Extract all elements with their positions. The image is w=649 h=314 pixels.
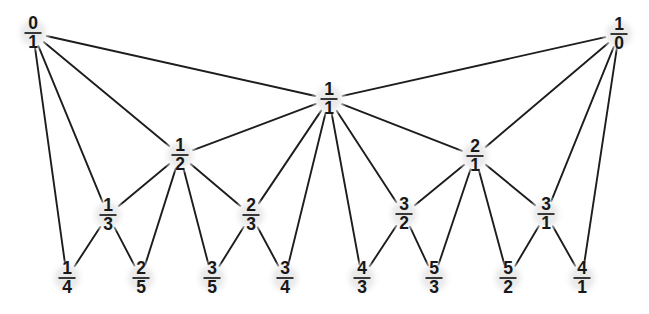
tree-edge — [486, 43, 609, 147]
tree-edge — [191, 164, 241, 206]
tree-edge — [370, 226, 397, 267]
fraction-numerator: 0 — [28, 13, 38, 33]
farey-tree-graph: 0110111221132332311425353443535241 — [0, 0, 649, 314]
tree-edge — [258, 227, 279, 265]
fraction-numerator: 1 — [614, 14, 624, 34]
fraction-numerator: 1 — [62, 258, 72, 278]
tree-edge — [515, 226, 539, 266]
farey-tree-figure: 0110111221132332311425353443535241 — [0, 0, 649, 314]
fraction-numerator: 4 — [577, 258, 587, 278]
fraction-denominator: 0 — [614, 33, 624, 53]
tree-edge — [551, 47, 613, 201]
fraction-numerator: 4 — [357, 258, 367, 278]
tree-edge — [259, 111, 321, 204]
fraction-numerator: 2 — [136, 258, 146, 278]
tree-edge — [145, 168, 176, 264]
nodes-layer: 0110111221132332311425353443535241 — [25, 13, 628, 297]
tree-edge — [486, 165, 535, 205]
fraction-numerator: 3 — [399, 194, 409, 214]
tree-edge — [479, 170, 505, 265]
tree-edge — [342, 104, 462, 151]
fraction-denominator: 1 — [577, 277, 587, 297]
fraction-denominator: 5 — [136, 277, 146, 297]
tree-edge — [193, 104, 316, 150]
node-halos-layer — [14, 14, 638, 297]
fraction-denominator: 2 — [503, 277, 513, 297]
tree-edge — [75, 227, 101, 267]
tree-edge — [219, 227, 243, 266]
tree-edge — [44, 42, 169, 146]
tree-edge — [184, 169, 209, 265]
tree-edge — [115, 227, 135, 265]
fraction-denominator: 1 — [541, 213, 551, 233]
fraction-numerator: 1 — [324, 79, 334, 99]
fraction-denominator: 5 — [207, 277, 217, 297]
tree-edge — [343, 37, 606, 96]
tree-edge — [553, 226, 575, 266]
fraction-denominator: 3 — [246, 214, 256, 234]
fraction-denominator: 3 — [103, 214, 113, 234]
fraction-numerator: 5 — [429, 258, 439, 278]
fraction-denominator: 1 — [324, 98, 334, 118]
fraction-denominator: 4 — [62, 277, 72, 297]
fraction-denominator: 1 — [470, 155, 480, 175]
tree-edge — [438, 169, 470, 264]
fraction-numerator: 3 — [207, 258, 217, 278]
fraction-denominator: 3 — [357, 277, 367, 297]
fraction-numerator: 2 — [470, 136, 480, 156]
fraction-numerator: 1 — [103, 195, 113, 215]
fraction-denominator: 2 — [399, 213, 409, 233]
tree-edge — [119, 164, 169, 206]
tree-edge — [288, 113, 325, 265]
fraction-denominator: 1 — [28, 32, 38, 52]
fraction-denominator: 2 — [175, 154, 185, 174]
tree-edge — [410, 227, 428, 266]
fraction-numerator: 5 — [503, 258, 513, 278]
fraction-numerator: 3 — [280, 258, 290, 278]
fraction-numerator: 2 — [246, 195, 256, 215]
edges-layer — [35, 36, 617, 266]
fraction-numerator: 3 — [541, 194, 551, 214]
tree-edge — [332, 113, 360, 264]
tree-edge — [35, 47, 65, 264]
tree-edge — [47, 36, 316, 96]
fraction-denominator: 4 — [280, 277, 290, 297]
fraction-numerator: 1 — [175, 135, 185, 155]
tree-edge — [415, 165, 464, 205]
fraction-denominator: 3 — [429, 277, 439, 297]
tree-edge — [38, 46, 102, 202]
